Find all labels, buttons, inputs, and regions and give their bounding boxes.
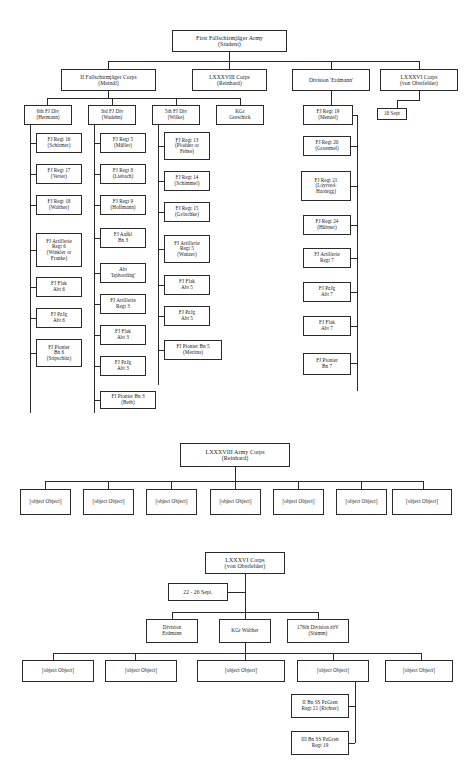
node-fj-artillerie-regt-7: FJ Artillerie Regt 7 <box>303 248 351 268</box>
node-artillerie-abt: [object Object] <box>105 660 177 682</box>
node-date-note: 22 - 26 Sept. <box>168 583 228 601</box>
node-fj-regt-20: FJ Regt 20 (Grassmel) <box>303 136 351 156</box>
node-fj-regt-16: FJ Regt 16 (Schirmer) <box>36 133 82 153</box>
node-fj-pionier-bn-6: FJ Pionier Bn 6 (Stipschitz) <box>36 339 82 367</box>
node-lxxxviii-corps: LXXXVIII Corps (Reinhard) <box>192 69 267 91</box>
node-fj-regt-21: FJ Regt 21 (Lóytved- Hardegg) <box>301 171 351 201</box>
node-ii-bn-ss-pzgren-21: II Bn SS PzGren Regt 21 (Richter) <box>291 694 349 718</box>
node-flak-brigade-18: [object Object] <box>392 489 452 515</box>
node-fj-regt-19: FJ Regt 19 (Menzel) <box>303 105 353 125</box>
node-division-erdmann: Division 'Erdmann' <box>292 69 370 91</box>
org-chart-page: First Fallschirmjäger Army (Student) II … <box>0 0 468 778</box>
node-6th-fj-div: 6th FJ Div (Hermann) <box>24 105 72 125</box>
spine-6th-fj <box>30 125 31 413</box>
node-kgr-chill: [object Object] <box>83 489 134 515</box>
node-iii-bn-ss-pzgren-19: III Bn SS PzGren Regt 19 <box>291 731 349 755</box>
node-kgr-heinke: [object Object] <box>297 660 369 682</box>
node-first-fj-army: First Fallschirmjäger Army (Student) <box>172 30 287 52</box>
node-712th-infantry-div: [object Object] <box>336 489 387 515</box>
spine-kgr-heinke <box>355 682 356 743</box>
node-fj-pionier-bn-7: FJ Pionier Bn 7 <box>303 353 351 375</box>
node-kgr-walther-2: KGr Walther <box>219 619 271 643</box>
node-fj-regt-14: FJ Regt 14 (Schimmel) <box>164 171 210 191</box>
node-division-erdmann-2: Division Erdmann <box>146 619 198 643</box>
node-fj-regt-17: FJ Regt 17 (Vetter) <box>36 164 82 184</box>
node-lxxxvi-corps-2: LXXXVI Corps (von Obstfelder) <box>205 552 285 574</box>
node-ii-bn-aue-ss-pzgren-16: [object Object] <box>22 660 94 682</box>
node-176th-division-zbv: 176th Division zbV (Stumm) <box>287 619 349 643</box>
node-719th-infantry-div: [object Object] <box>20 489 71 515</box>
node-3rd-fj-div: 3rd FJ Div (Wadehn) <box>88 105 136 125</box>
node-fj-artillerie-regt-3: FJ Artillerie Regt 3 <box>100 294 146 314</box>
node-fj-artillerie-regt-6: FJ Artillerie Regt 6 (Winkler or Franke) <box>36 233 82 267</box>
spine-5th-fj <box>158 125 159 385</box>
node-245th-infantry-div: [object Object] <box>210 489 261 515</box>
node-fj-aufkl-bn-3: FJ Aufkl Bn 3 <box>100 228 146 248</box>
node-fj-flak-abt-6: FJ Flak Abt 6 <box>36 277 82 297</box>
node-panzer-brigade-107: [object Object] <box>197 660 285 682</box>
node-kgr-walther: [object Object] <box>146 489 197 515</box>
spine-3rd-fj <box>94 125 95 413</box>
node-5th-fj-div: 5th FJ Div (Wilke) <box>152 105 200 125</box>
node-59th-infantry-div: [object Object] <box>273 489 324 515</box>
node-fj-regt-18: FJ Regt 18 (Walther) <box>36 195 82 215</box>
node-abt-isphording: Abt 'Isphording' <box>100 263 146 283</box>
node-fj-pzjg-abt-5: FJ PzJg Abt 5 <box>164 306 210 326</box>
node-18-sept: 18 Sept <box>377 108 407 120</box>
node-ii-fj-corps: II Fallschirmjäger Corps (Meindl) <box>61 69 156 91</box>
node-lxxxviii-army-corps: LXXXVIII Army Corps (Reinhard) <box>180 443 290 467</box>
node-lxxxvi-corps: LXXXVI Corps (von Obstfelder) <box>380 69 458 91</box>
node-fj-flak-abt-5: FJ Flak Abt 5 <box>164 275 210 295</box>
node-flak-abt: [object Object] <box>385 660 453 682</box>
node-fj-pzjg-abt-7: FJ PzJg Abt 7 <box>303 282 351 302</box>
node-kgr-greschick: KGr Greschick <box>216 105 264 125</box>
spine-erdmann <box>357 115 358 391</box>
node-fj-flak-abt-7: FJ Flak Abt 7 <box>303 316 351 336</box>
node-fj-regt-24: FJ Regt 24 (Hübner) <box>303 215 351 235</box>
node-fj-regt-5: FJ Regt 5 (Müller) <box>100 133 146 153</box>
node-fj-regt-15: FJ Regt 15 (Gröschke) <box>164 202 210 222</box>
node-fj-pionier-bn-3: FJ Pionier Bn 3 (Beth) <box>100 391 156 409</box>
node-fj-pzjg-abt-6: FJ PzJg Abt 6 <box>36 308 82 328</box>
node-fj-artillerie-regt-5: FJ Artillerie Regt 5 (Wanzer) <box>164 235 210 263</box>
node-fj-regt-8: FJ Regt 8 (Liebach) <box>100 164 146 184</box>
node-fj-regt-9: FJ Regt 9 (Hoffmann) <box>100 195 146 215</box>
node-fj-pionier-bn-5: FJ Pionier Bn 5 (Mertins) <box>164 340 222 360</box>
node-fj-regt-13: FJ Regt 13 (Plodder or Fehse) <box>164 132 210 160</box>
node-fj-flak-abt-3: FJ Flak Abt 3 <box>100 325 146 345</box>
node-fj-pzjg-abt-3: FJ PzJg Abt 3 <box>100 356 146 376</box>
